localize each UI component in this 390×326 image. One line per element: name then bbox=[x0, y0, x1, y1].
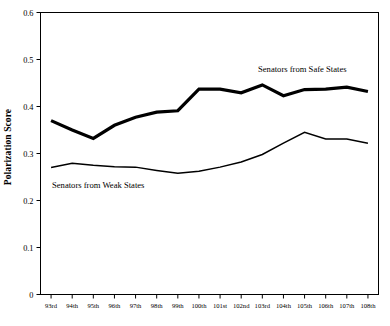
y-tick-label: 0.2 bbox=[23, 197, 33, 206]
series-line-thin bbox=[51, 132, 368, 173]
x-tick-label: 100th bbox=[191, 302, 207, 309]
annotation-weak-states: Senators from Weak States bbox=[52, 180, 145, 190]
x-tick-label: 96th bbox=[109, 302, 121, 309]
plot-frame bbox=[41, 13, 379, 295]
x-tick-label: 97th bbox=[130, 302, 142, 309]
annotation-safe-states: Senators from Safe States bbox=[258, 64, 347, 74]
x-tick-label: 99th bbox=[172, 302, 184, 309]
y-tick-label: 0.3 bbox=[23, 150, 33, 159]
y-axis-ticks: 00.10.20.30.40.50.6 bbox=[23, 9, 40, 300]
series-line-thick bbox=[51, 85, 368, 139]
x-tick-label: 95th bbox=[87, 302, 99, 309]
y-tick-label: 0.5 bbox=[23, 56, 33, 65]
x-tick-label: 104th bbox=[276, 302, 292, 309]
x-tick-label: 102nd bbox=[233, 302, 250, 309]
plot-area: 00.10.20.30.40.50.6 93rd94th95th96th97th… bbox=[0, 0, 390, 326]
polarization-score-chart: Polarization Score 00.10.20.30.40.50.6 9… bbox=[0, 0, 390, 326]
x-tick-label: 101st bbox=[213, 302, 227, 309]
x-axis-ticks: 93rd94th95th96th97th98th99th100th101st10… bbox=[45, 295, 376, 309]
y-tick-label: 0.4 bbox=[23, 103, 34, 112]
y-tick-label: 0.6 bbox=[23, 9, 33, 18]
x-tick-label: 107th bbox=[339, 302, 355, 309]
x-tick-label: 93rd bbox=[45, 302, 58, 309]
x-tick-label: 98th bbox=[151, 302, 163, 309]
y-tick-label: 0 bbox=[29, 291, 33, 300]
y-tick-label: 0.1 bbox=[23, 244, 33, 253]
x-tick-label: 106th bbox=[318, 302, 334, 309]
x-tick-label: 103rd bbox=[255, 302, 271, 309]
x-tick-label: 108th bbox=[360, 302, 376, 309]
x-tick-label: 105th bbox=[297, 302, 313, 309]
data-series-group bbox=[51, 85, 368, 173]
x-tick-label: 94th bbox=[66, 302, 78, 309]
